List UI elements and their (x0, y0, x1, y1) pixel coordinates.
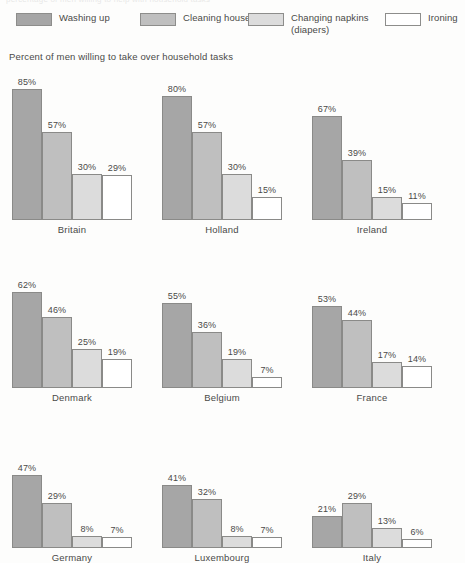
bar-holland-1 (192, 132, 222, 220)
chart-panel-italy: 21%29%13%6%Italy (312, 398, 432, 563)
legend-label-1: Cleaning house (183, 12, 250, 24)
bar-value-label-britain-1: 57% (38, 120, 76, 130)
legend-item-2: Changing napkins (diapers) (248, 12, 369, 35)
bar-value-label-holland-0: 80% (158, 84, 196, 94)
country-label-ireland: Ireland (312, 224, 432, 235)
bar-germany-3 (102, 537, 132, 548)
bar-value-label-holland-1: 57% (188, 120, 226, 130)
bar-value-label-denmark-2: 25% (68, 337, 106, 347)
bar-belgium-0 (162, 303, 192, 388)
legend-item-1: Cleaning house (140, 12, 250, 26)
chart-panel-denmark: 62%46%25%19%Denmark (12, 238, 132, 403)
chart-panel-germany: 47%29%8%7%Germany (12, 398, 132, 563)
bar-france-0 (312, 306, 342, 388)
bar-britain-2 (72, 174, 102, 220)
bar-luxembourg-3 (252, 537, 282, 548)
bar-belgium-1 (192, 332, 222, 388)
bar-germany-0 (12, 475, 42, 548)
bar-denmark-3 (102, 359, 132, 388)
bar-value-label-ireland-3: 11% (398, 191, 436, 201)
bar-holland-2 (222, 174, 252, 220)
chart-panel-france: 53%44%17%14%France (312, 238, 432, 403)
bar-britain-0 (12, 89, 42, 220)
bar-value-label-belgium-3: 7% (248, 365, 286, 375)
plot-area: 67%39%15%11% (312, 70, 432, 220)
bar-ireland-0 (312, 116, 342, 220)
legend-swatch-cleaning-house (140, 13, 176, 26)
bar-denmark-1 (42, 317, 72, 388)
scan-artifact-top-text: percentage of men willing to help with h… (0, 0, 465, 9)
chart-panel-holland: 80%57%30%15%Holland (162, 70, 282, 235)
bar-france-3 (402, 366, 432, 388)
legend-item-3: Ironing (385, 12, 458, 26)
bar-value-label-germany-3: 7% (98, 525, 136, 535)
bar-value-label-belgium-2: 19% (218, 347, 256, 357)
plot-area: 85%57%30%29% (12, 70, 132, 220)
bar-value-label-holland-2: 30% (218, 162, 256, 172)
legend-swatch-ironing (385, 13, 421, 26)
country-label-britain: Britain (12, 224, 132, 235)
bar-value-label-italy-0: 21% (308, 504, 346, 514)
bar-value-label-denmark-1: 46% (38, 305, 76, 315)
bar-value-label-denmark-3: 19% (98, 347, 136, 357)
chart-legend: Washing upCleaning houseChanging napkins… (0, 12, 465, 44)
bar-germany-2 (72, 536, 102, 548)
bar-value-label-france-3: 14% (398, 354, 436, 364)
bar-value-label-ireland-1: 39% (338, 148, 376, 158)
legend-swatch-washing-up (16, 13, 52, 26)
chart-panel-ireland: 67%39%15%11%Ireland (312, 70, 432, 235)
plot-area: 62%46%25%19% (12, 238, 132, 388)
plot-area: 53%44%17%14% (312, 238, 432, 388)
chart-subtitle: Percent of men willing to take over hous… (9, 51, 233, 62)
bar-value-label-italy-1: 29% (338, 491, 376, 501)
bar-holland-0 (162, 96, 192, 220)
bar-belgium-3 (252, 377, 282, 388)
plot-area: 47%29%8%7% (12, 398, 132, 548)
country-label-luxembourg: Luxembourg (162, 552, 282, 563)
bar-value-label-italy-3: 6% (398, 527, 436, 537)
bar-value-label-belgium-1: 36% (188, 320, 226, 330)
plot-area: 41%32%8%7% (162, 398, 282, 548)
bar-ireland-3 (402, 203, 432, 220)
bar-value-label-france-1: 44% (338, 308, 376, 318)
legend-item-0: Washing up (16, 12, 110, 26)
chart-panel-britain: 85%57%30%29%Britain (12, 70, 132, 235)
bar-value-label-germany-1: 29% (38, 491, 76, 501)
bar-luxembourg-2 (222, 536, 252, 548)
bar-italy-3 (402, 539, 432, 548)
plot-area: 55%36%19%7% (162, 238, 282, 388)
bar-value-label-ireland-0: 67% (308, 104, 346, 114)
bar-value-label-germany-0: 47% (8, 463, 46, 473)
plot-area: 21%29%13%6% (312, 398, 432, 548)
legend-swatch-changing-napkins (248, 13, 284, 26)
bar-value-label-italy-2: 13% (368, 516, 406, 526)
bar-britain-1 (42, 132, 72, 220)
clipped-header-text: percentage of men willing to help with h… (0, 0, 465, 4)
country-label-holland: Holland (162, 224, 282, 235)
country-label-germany: Germany (12, 552, 132, 563)
bar-britain-3 (102, 175, 132, 220)
chart-panel-belgium: 55%36%19%7%Belgium (162, 238, 282, 403)
legend-label-0: Washing up (59, 12, 110, 24)
bar-value-label-britain-0: 85% (8, 77, 46, 87)
bar-value-label-holland-3: 15% (248, 185, 286, 195)
legend-label-3: Ironing (428, 12, 458, 24)
bar-value-label-france-0: 53% (308, 294, 346, 304)
bar-value-label-britain-3: 29% (98, 163, 136, 173)
plot-area: 80%57%30%15% (162, 70, 282, 220)
bar-value-label-denmark-0: 62% (8, 280, 46, 290)
bar-value-label-luxembourg-1: 32% (188, 487, 226, 497)
bar-france-2 (372, 362, 402, 388)
bar-value-label-luxembourg-3: 7% (248, 525, 286, 535)
country-label-italy: Italy (312, 552, 432, 563)
bar-value-label-belgium-0: 55% (158, 291, 196, 301)
chart-panel-luxembourg: 41%32%8%7%Luxembourg (162, 398, 282, 563)
bar-italy-0 (312, 516, 342, 548)
bar-holland-3 (252, 197, 282, 220)
bar-value-label-luxembourg-0: 41% (158, 473, 196, 483)
legend-label-2: Changing napkins (diapers) (291, 12, 369, 35)
